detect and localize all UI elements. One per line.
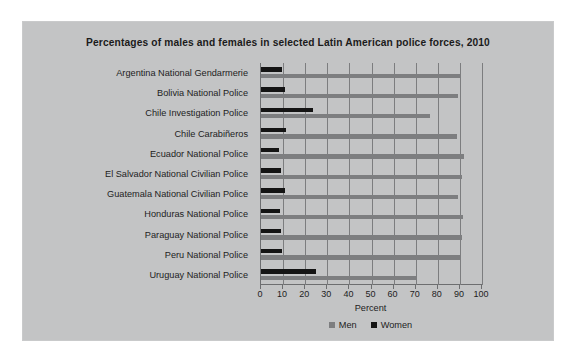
bar-women — [261, 148, 279, 152]
x-tick-label: 50 — [365, 289, 375, 299]
legend-swatch-icon — [371, 322, 377, 328]
category-label: Ecuador National Police — [150, 149, 248, 159]
bar-group — [261, 164, 482, 184]
bar-women — [261, 87, 285, 91]
category-label: Honduras National Police — [144, 209, 248, 219]
chart-legend: MenWomen — [260, 320, 481, 330]
bar-women — [261, 108, 313, 112]
bar-men — [261, 255, 461, 259]
chart-title: Percentages of males and females in sele… — [22, 37, 554, 48]
category-label-row: El Salvador National Civilian Police — [32, 164, 254, 184]
legend-label: Men — [339, 320, 357, 330]
screenshot-page: Percentages of males and females in sele… — [0, 0, 576, 362]
category-label-row: Chile Investigation Police — [32, 103, 254, 123]
x-axis-title: Percent — [260, 303, 481, 313]
legend-entry: Men — [329, 320, 357, 330]
chart-panel: Percentages of males and females in sele… — [22, 21, 554, 341]
category-label-row: Ecuador National Police — [32, 144, 254, 164]
category-label-row: Argentina National Gendarmerie — [32, 63, 254, 83]
bar-group — [261, 63, 482, 83]
x-tick-label: 10 — [277, 289, 287, 299]
plot-grid — [260, 63, 482, 285]
category-label: Paraguay National Police — [145, 230, 248, 240]
legend-swatch-icon — [329, 322, 335, 328]
gridline — [482, 63, 483, 285]
category-label-row: Bolivia National Police — [32, 83, 254, 103]
bar-women — [261, 269, 316, 273]
category-label-row: Paraguay National Police — [32, 225, 254, 245]
bar-group — [261, 245, 482, 265]
bar-men — [261, 276, 416, 280]
bar-group — [261, 103, 482, 123]
bar-men — [261, 74, 461, 78]
legend-label: Women — [381, 320, 413, 330]
bar-men — [261, 215, 463, 219]
category-label-row: Chile Carabiñeros — [32, 124, 254, 144]
bar-men — [261, 235, 462, 239]
bar-women — [261, 128, 286, 132]
category-label: Argentina National Gendarmerie — [116, 68, 248, 78]
bar-men — [261, 114, 430, 118]
x-tick-label: 90 — [454, 289, 464, 299]
category-label: Chile Carabiñeros — [174, 129, 248, 139]
bar-women — [261, 249, 282, 253]
x-tick-label: 80 — [432, 289, 442, 299]
bar-group — [261, 184, 482, 204]
x-tick-label: 20 — [299, 289, 309, 299]
bar-women — [261, 188, 285, 192]
bar-group — [261, 144, 482, 164]
bar-men — [261, 175, 462, 179]
bar-group — [261, 225, 482, 245]
x-tick-label: 40 — [343, 289, 353, 299]
bar-men — [261, 195, 458, 199]
bar-group — [261, 83, 482, 103]
x-tick-label: 70 — [410, 289, 420, 299]
bar-women — [261, 168, 281, 172]
bar-men — [261, 134, 457, 138]
x-tick-label: 60 — [388, 289, 398, 299]
bar-women — [261, 67, 282, 71]
legend-entry: Women — [371, 320, 413, 330]
category-label: Peru National Police — [165, 250, 248, 260]
category-label: El Salvador National Civilian Police — [105, 169, 248, 179]
bar-group — [261, 265, 482, 285]
x-tick-label: 30 — [321, 289, 331, 299]
category-label: Guatemala National Civilian Police — [107, 189, 248, 199]
category-label: Chile Investigation Police — [145, 108, 248, 118]
category-axis-labels: Argentina National GendarmerieBolivia Na… — [32, 63, 254, 285]
bar-group — [261, 124, 482, 144]
category-label: Uruguay National Police — [149, 270, 248, 280]
bar-group — [261, 204, 482, 224]
x-axis-tick-labels: 0102030405060708090100 — [260, 289, 481, 302]
bar-women — [261, 209, 280, 213]
category-label-row: Uruguay National Police — [32, 265, 254, 285]
category-label-row: Peru National Police — [32, 245, 254, 265]
bar-men — [261, 94, 458, 98]
category-label: Bolivia National Police — [157, 88, 248, 98]
bar-men — [261, 154, 464, 158]
x-tick-label: 100 — [473, 289, 488, 299]
x-tick-label: 0 — [257, 289, 262, 299]
category-label-row: Guatemala National Civilian Police — [32, 184, 254, 204]
category-label-row: Honduras National Police — [32, 204, 254, 224]
bar-women — [261, 229, 281, 233]
